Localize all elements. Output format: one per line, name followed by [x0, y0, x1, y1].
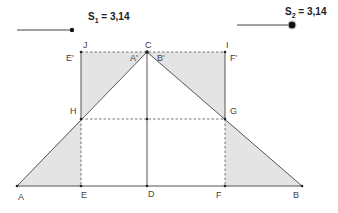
point-a[interactable] — [16, 185, 19, 188]
slider-1-label: S1 = 3,14 — [88, 11, 129, 24]
label-a: A — [18, 192, 24, 202]
label-d: D — [148, 189, 155, 199]
point-e[interactable] — [80, 185, 83, 188]
point-f[interactable] — [224, 185, 227, 188]
point-h[interactable] — [80, 118, 83, 121]
point-cd-hg-intersection[interactable] — [146, 118, 148, 120]
equals-sign: = — [99, 11, 110, 22]
point-d[interactable] — [146, 185, 149, 188]
label-e-prime: E' — [66, 53, 74, 63]
label-c: C — [145, 40, 152, 50]
geometry-canvas[interactable] — [0, 0, 338, 213]
slider-2-label: S2 = 3,14 — [285, 6, 326, 19]
sliders[interactable] — [17, 21, 297, 33]
point-i[interactable] — [224, 51, 227, 54]
label-j: J — [83, 40, 88, 50]
slider-value: 3,14 — [110, 11, 129, 22]
slider-name: S — [88, 11, 95, 22]
point-c[interactable] — [145, 50, 149, 54]
label-g: G — [230, 106, 237, 116]
label-i: I — [226, 40, 229, 50]
slider-value: 3,14 — [307, 6, 326, 17]
point-b[interactable] — [301, 185, 304, 188]
point-g[interactable] — [224, 118, 227, 121]
label-a-prime: A' — [130, 53, 138, 63]
slider-1-handle[interactable] — [70, 28, 74, 32]
label-b: B — [293, 190, 299, 200]
label-b-prime: B' — [157, 53, 165, 63]
label-e: E — [81, 190, 87, 200]
label-f: F — [216, 190, 222, 200]
label-f-prime: F' — [230, 53, 237, 63]
equals-sign: = — [296, 6, 307, 17]
slider-name: S — [285, 6, 292, 17]
slider-2-handle[interactable] — [289, 22, 296, 29]
label-h: H — [70, 106, 77, 116]
point-j[interactable] — [80, 51, 83, 54]
